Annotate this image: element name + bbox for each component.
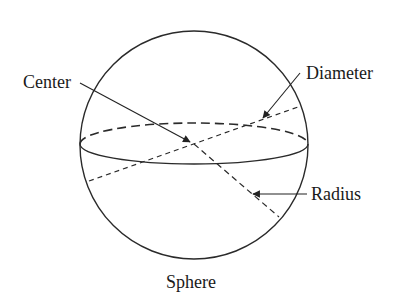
sphere-outline xyxy=(80,31,308,259)
center-label: Center xyxy=(23,73,71,91)
equator-back xyxy=(80,123,308,144)
diameter-arrow xyxy=(263,73,300,118)
radius-line xyxy=(194,144,279,217)
equator-front xyxy=(80,144,308,164)
sphere-caption: Sphere xyxy=(166,273,216,291)
sphere-diagram xyxy=(0,0,407,298)
diameter-label: Diameter xyxy=(306,64,373,82)
radius-label: Radius xyxy=(311,185,361,203)
diameter-line xyxy=(89,107,298,181)
